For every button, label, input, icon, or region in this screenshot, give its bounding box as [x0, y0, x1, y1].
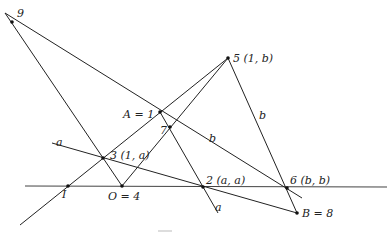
point-p3	[101, 156, 105, 160]
point-label-p9: 9	[17, 7, 24, 20]
point-label-p5: 5 (1, b)	[233, 52, 273, 65]
line-label-lb1: b	[209, 132, 216, 145]
line-9-O-line	[5, 13, 122, 186]
line-9-6-line	[5, 13, 302, 198]
point-p7	[168, 125, 172, 129]
line-label-la1: a	[56, 136, 63, 149]
line-O-5-line	[122, 58, 228, 186]
point-p5	[226, 56, 230, 60]
point-p6	[285, 186, 289, 190]
point-label-pB: B = 8	[301, 207, 333, 220]
line-a-3-B-line	[52, 143, 297, 213]
point-label-pI: I	[61, 188, 67, 201]
geometry-diagram: 9A = 175 (1, b)3 (1, a)IO = 42 (a, a)6 (…	[0, 0, 387, 236]
point-label-p2: 2 (a, a)	[205, 174, 245, 187]
point-pO	[120, 184, 124, 188]
point-pI	[66, 184, 70, 188]
point-label-p7: 7	[160, 124, 167, 137]
point-label-pA: A = 1	[122, 108, 154, 121]
line-label-la2: a	[215, 201, 222, 214]
point-p9	[10, 20, 14, 24]
point-p2	[201, 185, 205, 189]
point-label-p3: 3 (1, a)	[110, 149, 150, 162]
point-pB	[295, 211, 299, 215]
point-label-pO: O = 4	[108, 190, 140, 203]
point-pA	[158, 110, 162, 114]
point-label-p6: 6 (b, b)	[290, 174, 330, 187]
line-label-lb2: b	[259, 109, 266, 122]
